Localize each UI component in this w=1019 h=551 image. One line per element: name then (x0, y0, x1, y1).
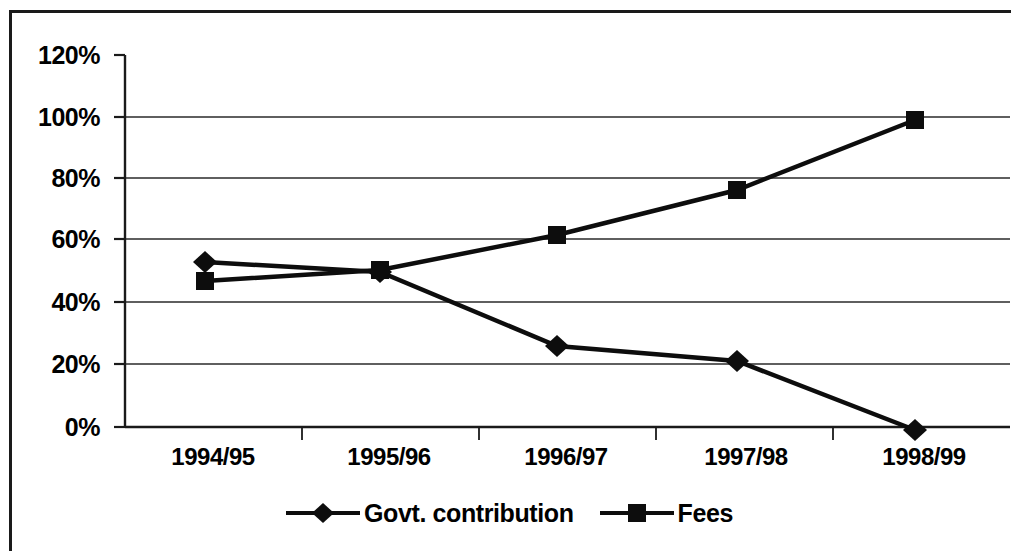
x-axis-label-1998-99: 1998/99 (882, 443, 965, 471)
x-axis-label-1997-98: 1997/98 (704, 443, 787, 471)
square-marker-icon (600, 500, 674, 526)
data-point-fees-1994-95 (196, 272, 214, 290)
data-point-govt-1998-99 (903, 419, 927, 441)
legend-label-govt-contribution: Govt. contribution (364, 501, 573, 526)
gridlines (125, 117, 1010, 364)
chart-figure: 120% 100% 80% 60% 40% 20% 0% 1994/95 199… (0, 0, 1019, 551)
data-point-fees-1997-98 (728, 181, 746, 199)
x-axis-ticks (302, 427, 833, 440)
x-axis-label-1996-97: 1996/97 (524, 443, 607, 471)
data-point-fees-1998-99 (906, 111, 924, 129)
legend-item-fees: Fees (600, 500, 733, 526)
y-axis-label-0: 0% (5, 413, 100, 442)
x-axis-label-1995-96: 1995/96 (347, 443, 430, 471)
data-point-govt-1994-95 (193, 251, 217, 273)
line-chart: 120% 100% 80% 60% 40% 20% 0% 1994/95 199… (0, 0, 1019, 551)
y-axis-label-80: 80% (5, 164, 100, 193)
data-point-govt-1997-98 (725, 350, 749, 372)
legend-item-govt-contribution: Govt. contribution (286, 500, 573, 526)
data-point-govt-1996-97 (545, 335, 569, 357)
y-axis-label-20: 20% (5, 350, 100, 379)
legend-label-fees: Fees (678, 501, 733, 526)
y-axis-label-60: 60% (5, 225, 100, 254)
diamond-marker-icon (286, 500, 360, 526)
y-axis-ticks (114, 55, 125, 427)
plot-canvas (0, 0, 1019, 551)
series-markers-fees (196, 111, 924, 290)
series-line-fees (205, 120, 915, 281)
y-axis-label-40: 40% (5, 288, 100, 317)
series-markers-govt-contribution (193, 251, 927, 441)
x-axis-label-1994-95: 1994/95 (171, 443, 254, 471)
y-axis-label-120: 120% (5, 41, 100, 70)
chart-legend: Govt. contribution Fees (0, 500, 1019, 526)
y-axis-label-100: 100% (5, 103, 100, 132)
data-point-fees-1996-97 (548, 226, 566, 244)
